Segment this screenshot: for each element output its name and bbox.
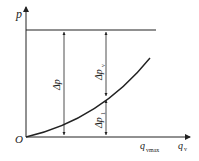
x-axis-label: q v — [178, 140, 187, 152]
svg-text:vmax: vmax — [146, 147, 159, 153]
svg-text:q: q — [178, 140, 183, 151]
origin-label: O — [15, 133, 23, 145]
svg-text:v: v — [184, 146, 187, 152]
svg-text:1: 1 — [100, 112, 106, 115]
pressure-loss-curve — [26, 58, 150, 137]
delta-p-label: Δp — [51, 79, 62, 91]
svg-text:Δp: Δp — [93, 69, 104, 81]
qvmax-label: q vmax — [140, 140, 159, 153]
svg-text:q: q — [140, 140, 145, 151]
svg-text:v: v — [100, 64, 106, 67]
delta-pv-label: Δp v — [93, 64, 106, 81]
delta-p1-label: Δp 1 — [93, 112, 106, 129]
y-axis-label: p — [15, 7, 22, 21]
svg-text:Δp: Δp — [51, 79, 62, 91]
svg-text:Δp: Δp — [93, 117, 104, 129]
pressure-flow-diagram: p O q v q vmax Δp Δp v Δp 1 — [0, 0, 199, 161]
